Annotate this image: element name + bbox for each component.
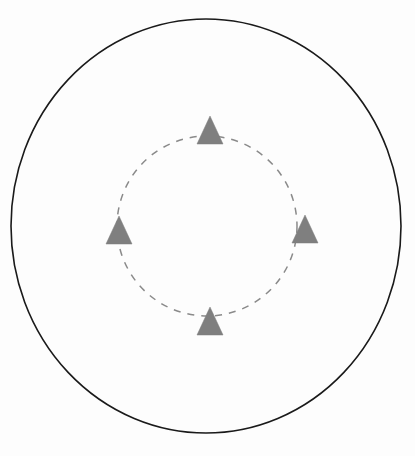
circle-triangle-diagram: [0, 0, 415, 456]
diagram-canvas: [0, 0, 415, 456]
diagram-background: [0, 0, 415, 456]
